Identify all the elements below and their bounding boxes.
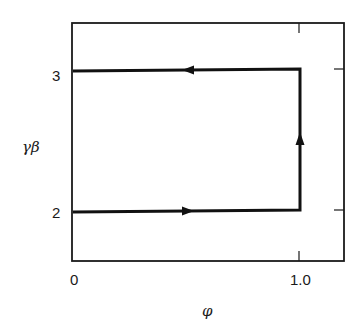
chart: 3 2 0 1.0 γβ φ	[0, 0, 362, 336]
cycle-path	[73, 69, 300, 212]
arrow-right-icon	[182, 207, 194, 216]
y-tick-label-2: 2	[52, 204, 60, 221]
x-tick-label-1: 1.0	[290, 271, 311, 288]
x-tick-label-0: 0	[70, 271, 78, 288]
x-axis-label: φ	[202, 302, 213, 320]
y-axis-label: γβ	[22, 138, 40, 156]
y-tick-label-3: 3	[52, 67, 60, 84]
arrow-up-icon	[296, 132, 305, 145]
arrow-left-icon	[182, 66, 194, 75]
